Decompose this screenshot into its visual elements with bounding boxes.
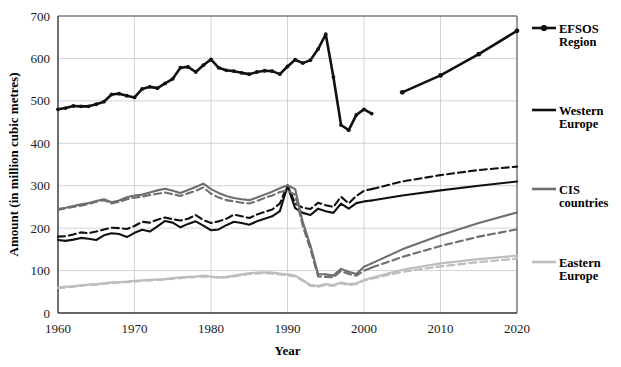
y-axis-tick-label: 300 [31, 178, 51, 193]
data-point-marker [316, 47, 320, 51]
x-axis-tick-label: 1990 [275, 321, 301, 336]
x-axis-title: Year [275, 343, 301, 358]
y-axis-tick-label: 200 [31, 221, 51, 236]
x-axis-tick-label: 2000 [351, 321, 377, 336]
data-point-marker [186, 65, 190, 69]
legend-label-line1: EFSOS [559, 22, 599, 36]
data-point-marker [370, 112, 374, 116]
legend-swatch-marker [541, 25, 547, 31]
data-point-marker [56, 107, 60, 111]
data-point-marker [79, 104, 83, 108]
x-axis-tick-label: 2010 [428, 321, 454, 336]
data-point-marker [232, 69, 236, 73]
y-axis-tick-label: 600 [31, 51, 51, 66]
data-point-marker [293, 58, 297, 62]
legend-label-line2: Region [559, 35, 597, 49]
y-axis-tick-label: 500 [31, 93, 51, 108]
data-point-marker [247, 72, 251, 76]
data-point-marker [255, 70, 259, 74]
data-point-marker [476, 52, 481, 57]
chart-container: 0100200300400500600700196019701980199020… [0, 0, 621, 367]
data-point-marker [515, 28, 520, 33]
data-point-marker [125, 94, 129, 98]
data-point-marker [156, 86, 160, 90]
legend-label-line2: Europe [559, 269, 599, 283]
x-axis-tick-label: 1980 [198, 321, 224, 336]
data-point-marker [201, 63, 205, 67]
data-point-marker [301, 61, 305, 65]
data-point-marker [224, 68, 228, 72]
data-point-marker [263, 69, 267, 73]
data-point-marker [194, 70, 198, 74]
data-point-marker [400, 90, 405, 95]
data-point-marker [133, 96, 137, 100]
legend-label-line1: CIS [559, 183, 580, 197]
data-point-marker [332, 75, 336, 79]
data-point-marker [179, 66, 183, 70]
data-point-marker [240, 71, 244, 75]
data-point-marker [438, 73, 443, 78]
data-point-marker [87, 104, 91, 108]
x-axis-tick-label: 1970 [122, 321, 148, 336]
data-point-marker [270, 69, 274, 73]
data-point-marker [278, 72, 282, 76]
data-point-marker [148, 85, 152, 89]
y-axis-tick-label: 400 [31, 136, 51, 151]
y-axis-tick-label: 0 [44, 306, 51, 321]
y-axis-title: Amount (in million cubic metres) [6, 73, 21, 257]
data-point-marker [286, 65, 290, 69]
legend-label-line2: Europe [559, 117, 599, 131]
data-point-marker [339, 123, 343, 127]
data-point-marker [110, 93, 114, 97]
data-point-marker [64, 106, 68, 110]
data-point-marker [347, 128, 351, 132]
data-point-marker [362, 107, 366, 111]
data-point-marker [217, 66, 221, 70]
y-axis-tick-label: 700 [31, 9, 51, 24]
data-point-marker [309, 58, 313, 62]
data-point-marker [209, 57, 213, 61]
y-axis-tick-label: 100 [31, 263, 51, 278]
data-point-marker [102, 100, 106, 104]
data-point-marker [117, 92, 121, 96]
data-point-marker [140, 87, 144, 91]
data-point-marker [163, 82, 167, 86]
data-point-marker [94, 102, 98, 106]
legend-label-line1: Eastern [559, 256, 601, 270]
x-axis-tick-label: 2020 [504, 321, 530, 336]
data-point-marker [324, 32, 328, 36]
line-chart: 0100200300400500600700196019701980199020… [0, 0, 621, 367]
x-axis-tick-label: 1960 [45, 321, 71, 336]
legend-label-line1: Western [559, 104, 603, 118]
data-point-marker [354, 113, 358, 117]
data-point-marker [71, 104, 75, 108]
legend-label-line2: countries [559, 196, 608, 210]
data-point-marker [171, 77, 175, 81]
